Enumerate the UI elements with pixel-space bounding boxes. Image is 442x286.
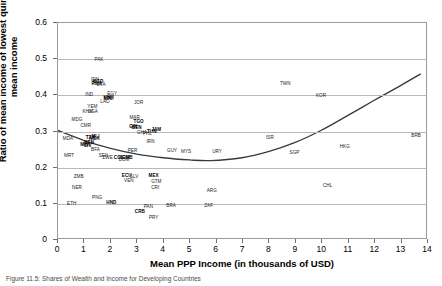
data-point-label: MRT	[64, 154, 74, 159]
y-tick-label: 0.5	[35, 54, 47, 63]
data-point-label: PNG	[92, 196, 102, 201]
x-tick-label: 11	[343, 245, 352, 254]
x-tick-label: 1	[81, 245, 86, 254]
x-tick-mark	[348, 239, 349, 243]
data-point-label: CMR	[80, 123, 91, 128]
data-point-label: ETH	[67, 202, 76, 207]
data-point-label: DOM	[119, 157, 130, 162]
gridline-y-0.2	[58, 168, 426, 169]
x-tick-label: 14	[422, 245, 431, 254]
data-point-label: HND	[106, 201, 116, 206]
data-point-label: TUN	[147, 129, 157, 134]
data-point-label: PRY	[149, 215, 159, 220]
data-point-label: CHL	[323, 184, 332, 189]
y-tick-label: 0.4	[35, 90, 47, 99]
x-tick-mark	[401, 239, 402, 243]
data-point-label: UGA	[88, 110, 98, 115]
x-tick-mark	[295, 239, 296, 243]
x-tick-label: 3	[134, 245, 139, 254]
x-tick-mark	[83, 239, 84, 243]
x-tick-mark	[427, 239, 428, 243]
x-tick-mark	[242, 239, 243, 243]
x-tick-mark	[268, 239, 269, 243]
data-point-label: LKA	[97, 83, 106, 88]
x-tick-mark	[57, 239, 58, 243]
data-point-label: NER	[72, 185, 82, 190]
x-tick-label: 7	[240, 245, 245, 254]
data-point-label: BRA	[166, 204, 176, 209]
data-point-label: ZWE	[102, 155, 112, 160]
data-point-label: SGP	[290, 151, 300, 156]
x-tick-mark	[163, 239, 164, 243]
trend-line	[58, 23, 426, 238]
x-tick-mark	[110, 239, 111, 243]
x-tick-label: 10	[317, 245, 326, 254]
data-point-label: PER	[128, 149, 138, 154]
data-point-label: BRB	[411, 134, 421, 139]
data-point-label: IND	[85, 92, 93, 97]
y-tick-label: 0.1	[35, 199, 47, 208]
data-point-label: ZAF	[204, 203, 213, 208]
x-tick-mark	[216, 239, 217, 243]
data-point-label: LAO	[100, 100, 109, 105]
y-tick-label: 0.3	[35, 127, 47, 136]
x-tick-label: 13	[396, 245, 405, 254]
x-tick-label: 0	[55, 245, 60, 254]
data-point-label: CRB	[135, 209, 145, 214]
gridline-y-0.5	[58, 59, 426, 60]
data-point-label: JOR	[134, 101, 143, 106]
data-point-label: IRN	[146, 140, 154, 145]
x-axis-title: Mean PPP Income (in thousands of USD)	[57, 258, 427, 269]
x-tick-label: 4	[160, 245, 165, 254]
x-tick-mark	[321, 239, 322, 243]
data-point-label: HKG	[340, 144, 350, 149]
data-point-label: PAK	[94, 58, 103, 63]
data-point-label: ZMB	[74, 175, 84, 180]
data-point-label: MEX	[149, 174, 159, 179]
data-point-label: GUY	[167, 148, 177, 153]
y-tick-label: 0.6	[35, 18, 47, 27]
data-point-label: PAN	[144, 205, 153, 210]
figure-caption: Figure 11.5: Shares of Wealth and Income…	[6, 275, 436, 283]
x-tick-label: 5	[187, 245, 192, 254]
y-axis: 00.10.20.30.40.50.6	[0, 22, 57, 240]
data-point-label: MYS	[181, 150, 191, 155]
data-point-label: ARG	[207, 189, 217, 194]
x-tick-mark	[136, 239, 137, 243]
x-tick-mark	[374, 239, 375, 243]
y-tick-label: 0	[42, 235, 47, 244]
data-point-label: BFA	[91, 148, 100, 153]
x-tick-label: 8	[266, 245, 271, 254]
gridline-y-0.3	[58, 132, 426, 133]
x-tick-label: 9	[292, 245, 297, 254]
data-point-label: URY	[212, 150, 222, 155]
x-tick-label: 12	[369, 245, 378, 254]
x-tick-label: 6	[213, 245, 218, 254]
plot-area: PAKIDNBGDRWALKAINDEGYVNMNPLLAOJORYEMKHMU…	[57, 22, 427, 239]
y-tick-label: 0.2	[35, 163, 47, 172]
data-point-label: MDA	[63, 136, 73, 141]
x-tick-mark	[189, 239, 190, 243]
data-point-label: KOR	[316, 94, 326, 99]
data-point-label: VEN	[124, 179, 134, 184]
data-point-label: ISR	[266, 136, 274, 141]
x-tick-label: 2	[107, 245, 112, 254]
data-point-label: CRI	[151, 185, 159, 190]
data-point-label: TWN	[280, 82, 291, 87]
figure-container: Ratio of mean income of lowest quintile …	[0, 0, 442, 286]
